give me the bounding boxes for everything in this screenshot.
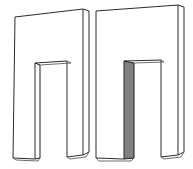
- arch-shapes-drawing: [0, 0, 193, 169]
- left-arch-side-face: [83, 9, 89, 155]
- left-arch-notch-inner-side-face: [35, 63, 40, 159]
- right-arch-side-face: [178, 5, 184, 155]
- right-arch-shaded-inner-face: [124, 61, 134, 159]
- figure-container: [0, 0, 193, 169]
